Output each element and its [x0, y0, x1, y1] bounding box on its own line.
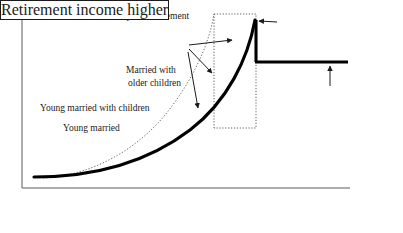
defer-arrow-middle	[189, 49, 212, 73]
stage-label-married-older-children-line1: Married with	[126, 66, 176, 76]
callout-retirement-income-higher: Retirement income higher	[0, 0, 169, 20]
stage-label-married-older-children-line2: older children	[128, 79, 181, 89]
stage-label-young-married: Young married	[63, 124, 120, 134]
defer-arrow-upper	[189, 40, 232, 45]
dotted-consumption-curve	[43, 14, 214, 178]
revised-income-arrow	[259, 21, 277, 22]
income-curve	[34, 20, 255, 177]
deferral-window-region	[214, 14, 256, 128]
stage-label-young-married-with-children: Young married with children	[40, 104, 150, 114]
income-lifecycle-diagram	[0, 0, 403, 233]
